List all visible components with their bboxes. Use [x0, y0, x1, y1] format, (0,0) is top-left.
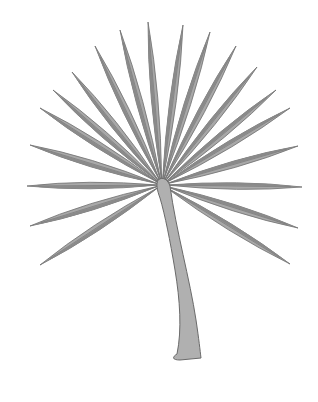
leaflet-midrib [165, 187, 279, 258]
leaflets [27, 22, 302, 265]
leaflet-midrib [41, 186, 159, 223]
leaflet-midrib [166, 186, 287, 224]
leaflet-midrib [50, 187, 159, 258]
palm-leaf-icon [0, 0, 318, 402]
